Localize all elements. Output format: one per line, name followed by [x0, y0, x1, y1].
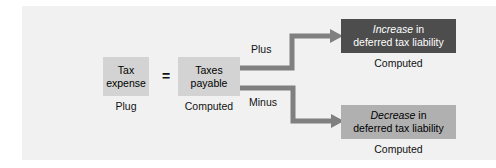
node-increase-deferred-tax-liability: Increase in deferred tax liability — [341, 19, 456, 53]
caption-taxes-payable: Computed — [175, 100, 243, 112]
edge-label-minus: Minus — [249, 96, 277, 108]
node-increase-line2: deferred tax liability — [353, 36, 443, 49]
node-tax-expense-line2: expense — [106, 77, 146, 90]
node-decrease-deferred-tax-liability: Decrease in deferred tax liability — [341, 105, 456, 139]
caption-increase: Computed — [341, 57, 456, 69]
node-increase-line1-rest: in — [413, 23, 424, 35]
minus-connector — [240, 88, 344, 128]
node-increase-emphasis: Increase — [373, 23, 413, 35]
edge-label-plus: Plus — [251, 43, 271, 55]
node-taxes-payable-line2: payable — [191, 77, 228, 90]
node-taxes-payable-line1: Taxes — [195, 64, 222, 77]
equals-sign: = — [155, 68, 177, 84]
node-decrease-emphasis: Decrease — [370, 109, 415, 121]
caption-decrease: Computed — [341, 143, 456, 155]
node-taxes-payable: Taxes payable — [178, 57, 240, 96]
caption-tax-expense: Plug — [103, 100, 149, 112]
diagram-canvas: Tax expense Plug = Taxes payable Compute… — [0, 0, 496, 168]
node-increase-line1: Increase in — [373, 23, 424, 36]
node-decrease-line1: Decrease in — [370, 109, 426, 122]
node-tax-expense-line1: Tax — [118, 64, 134, 77]
node-tax-expense: Tax expense — [103, 57, 149, 96]
node-decrease-line2: deferred tax liability — [353, 122, 443, 135]
node-decrease-line1-rest: in — [415, 109, 426, 121]
